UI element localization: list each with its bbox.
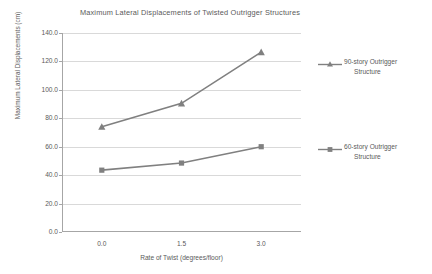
data-point bbox=[99, 168, 104, 173]
data-point bbox=[259, 144, 264, 149]
y-axis-title: Maximum Lateral Displacements (cm) bbox=[14, 0, 21, 146]
x-tick-label: 3.0 bbox=[241, 240, 281, 247]
series-line-60-story bbox=[102, 147, 261, 170]
legend-label-60-story: 60-story Outrigger Structure bbox=[344, 142, 430, 161]
x-axis-title: Rate of Twist (degrees/floor) bbox=[62, 254, 301, 261]
legend-label-90-story: 90-story Outrigger Structure bbox=[344, 57, 430, 76]
legend-label-line2: Structure bbox=[344, 152, 430, 162]
series-line-90-story bbox=[102, 52, 261, 127]
series-plot bbox=[62, 33, 301, 232]
y-tick-label: 0.0 bbox=[12, 228, 58, 235]
x-tick-label: 0.0 bbox=[82, 240, 122, 247]
x-axis-tick-labels: 0.0 1.5 3.0 bbox=[62, 240, 301, 252]
data-point bbox=[258, 49, 265, 56]
legend-label-line2: Structure bbox=[344, 67, 430, 77]
x-tick-label: 1.5 bbox=[162, 240, 202, 247]
chart-title: Maximum Lateral Displacements of Twisted… bbox=[0, 8, 380, 17]
data-point bbox=[178, 100, 185, 107]
legend-key-triangle-icon bbox=[318, 60, 342, 69]
legend-key-square-icon bbox=[318, 145, 342, 154]
plot-area bbox=[62, 33, 301, 232]
legend-label-line1: 60-story Outrigger bbox=[344, 143, 397, 150]
data-point bbox=[179, 160, 184, 165]
chart-container: Maximum Lateral Displacements of Twisted… bbox=[0, 0, 432, 274]
series-markers-90-story bbox=[98, 49, 265, 130]
y-tick-label: 20.0 bbox=[12, 200, 58, 207]
y-tick-label: 40.0 bbox=[12, 171, 58, 178]
legend-label-line1: 90-story Outrigger bbox=[344, 58, 397, 65]
